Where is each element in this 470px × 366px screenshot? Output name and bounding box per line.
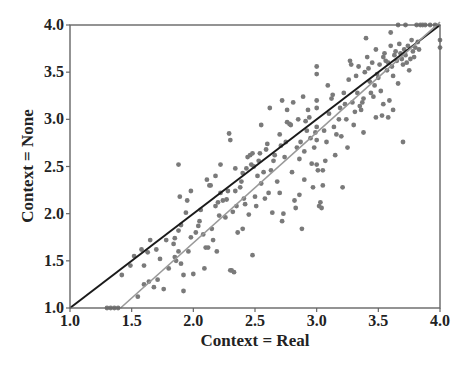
data-point <box>370 60 375 65</box>
data-point <box>381 102 386 107</box>
data-point <box>161 287 166 292</box>
data-point <box>312 145 317 150</box>
data-point <box>275 179 280 184</box>
data-point <box>184 210 189 215</box>
data-point <box>264 147 269 152</box>
data-point <box>155 277 160 282</box>
data-point <box>216 200 221 205</box>
data-point <box>300 226 305 231</box>
data-point <box>244 166 249 171</box>
data-point <box>142 263 147 268</box>
data-point <box>277 132 282 137</box>
data-point <box>197 219 202 224</box>
data-point <box>233 189 238 194</box>
data-point <box>306 108 311 113</box>
data-point <box>189 189 194 194</box>
data-point <box>322 128 327 133</box>
x-tick-label: 3.5 <box>368 312 388 329</box>
data-point <box>404 60 409 65</box>
data-point <box>401 140 406 145</box>
data-point <box>380 113 385 118</box>
data-point <box>250 151 255 156</box>
data-point <box>148 238 153 243</box>
data-point <box>409 38 414 43</box>
regression-line <box>121 22 440 308</box>
data-point <box>181 273 186 278</box>
data-point <box>407 68 412 73</box>
data-point <box>391 108 396 113</box>
data-point <box>193 230 198 235</box>
data-point <box>314 125 319 130</box>
data-point <box>319 206 324 211</box>
data-point <box>240 226 245 231</box>
data-point <box>346 77 351 82</box>
data-point <box>356 64 361 69</box>
data-point <box>255 174 260 179</box>
data-point <box>362 70 367 75</box>
data-point <box>267 106 272 111</box>
y-tick-label: 2.0 <box>44 205 64 222</box>
data-point <box>361 96 366 101</box>
data-point <box>152 285 157 290</box>
y-tick-label: 3.0 <box>44 110 64 127</box>
data-point <box>277 191 282 196</box>
x-tick-label: 2.5 <box>245 312 265 329</box>
data-point <box>386 115 391 120</box>
data-point <box>214 249 219 254</box>
data-point <box>298 140 303 145</box>
data-point <box>314 138 319 143</box>
data-point <box>291 100 296 105</box>
data-point <box>307 115 312 120</box>
data-point <box>179 261 184 266</box>
data-point <box>235 230 240 235</box>
data-point <box>239 179 244 184</box>
data-point <box>301 94 306 99</box>
data-point <box>243 202 248 207</box>
y-tick-label: 4.0 <box>44 16 64 33</box>
data-point <box>412 55 417 60</box>
data-point <box>246 212 251 217</box>
data-point <box>271 158 276 163</box>
data-point <box>332 125 337 130</box>
data-point <box>377 62 382 67</box>
data-point <box>417 47 422 52</box>
data-point <box>371 94 376 99</box>
data-point <box>297 192 302 197</box>
data-point <box>314 98 319 103</box>
data-point <box>320 168 325 173</box>
y-axis-ticks: 1.01.52.02.53.03.54.0 <box>44 16 70 316</box>
scatter-chart: 1.01.52.02.53.03.54.0 1.01.52.02.53.03.5… <box>0 0 470 366</box>
y-tick-label: 1.0 <box>44 299 64 316</box>
data-point <box>164 238 169 243</box>
data-point <box>206 245 211 250</box>
data-point <box>320 183 325 188</box>
data-point <box>361 130 366 135</box>
data-point <box>303 119 308 124</box>
data-point <box>354 74 359 79</box>
data-point <box>365 55 370 60</box>
data-point <box>396 81 401 86</box>
data-point <box>232 270 237 275</box>
data-point <box>261 170 266 175</box>
x-axis-title: Context = Real <box>201 331 310 350</box>
data-point <box>311 185 316 190</box>
data-point <box>270 210 275 215</box>
data-point <box>176 228 181 233</box>
data-point <box>314 72 319 77</box>
data-point <box>280 98 285 103</box>
x-tick-label: 4.0 <box>430 312 450 329</box>
data-point <box>196 224 201 229</box>
data-point <box>330 92 335 97</box>
y-tick-label: 1.5 <box>44 252 64 269</box>
data-point <box>393 49 398 54</box>
data-point <box>314 64 319 69</box>
data-point <box>333 153 338 158</box>
data-point <box>259 123 264 128</box>
data-point <box>189 235 194 240</box>
data-point <box>250 253 255 258</box>
x-tick-label: 2.0 <box>183 312 203 329</box>
data-point <box>292 198 297 203</box>
data-point <box>233 166 238 171</box>
data-point <box>158 257 163 262</box>
data-point <box>213 174 218 179</box>
